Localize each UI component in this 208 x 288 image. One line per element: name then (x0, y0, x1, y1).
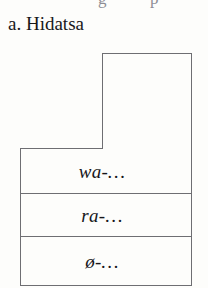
row-zero: ø-… (21, 237, 191, 285)
row-zero-label: ø-… (85, 252, 119, 271)
row-wa: wa-… (21, 149, 191, 193)
column-top-edge (102, 53, 192, 54)
row-ra-label: ra-… (81, 206, 122, 225)
hidatsa-template-diagram: wa-… ra-… ø-… (0, 0, 208, 288)
row-wa-label: wa-… (79, 162, 126, 181)
column-left-edge (102, 53, 103, 149)
outer-right-edge (191, 53, 192, 286)
outer-bottom-edge (20, 285, 192, 286)
row-ra: ra-… (21, 194, 191, 236)
